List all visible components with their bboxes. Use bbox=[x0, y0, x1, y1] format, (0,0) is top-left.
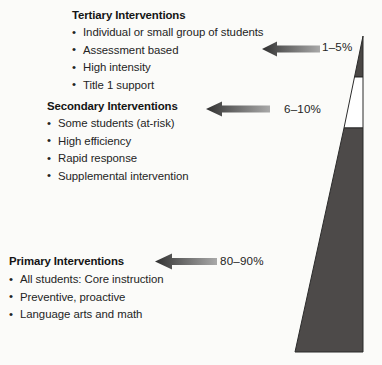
list-item: •High intensity bbox=[72, 59, 264, 77]
list-item-label: Some students (at-risk) bbox=[58, 117, 175, 129]
list-item-label: All students: Core instruction bbox=[20, 273, 163, 285]
bullet-icon: • bbox=[72, 59, 76, 77]
list-item-label: Language arts and math bbox=[20, 308, 142, 320]
tier-title-tertiary: Tertiary Interventions bbox=[72, 8, 264, 23]
bullet-icon: • bbox=[47, 115, 51, 133]
bullet-icon: • bbox=[72, 24, 76, 42]
list-item: •Rapid response bbox=[47, 150, 188, 168]
tier-title-primary: Primary Interventions bbox=[9, 254, 163, 269]
tier-list-secondary: •Some students (at-risk) •High efficienc… bbox=[47, 115, 188, 185]
left-arrow-icon-primary bbox=[155, 253, 217, 270]
list-item-label: Supplemental intervention bbox=[58, 170, 188, 182]
tier-title-secondary: Secondary Interventions bbox=[47, 99, 188, 114]
percent-label-primary: 80–90% bbox=[220, 254, 264, 267]
pyramid-segment-primary bbox=[295, 128, 363, 352]
bullet-icon: • bbox=[47, 150, 51, 168]
bullet-icon: • bbox=[72, 41, 76, 59]
tier-list-primary: •All students: Core instruction •Prevent… bbox=[9, 271, 163, 324]
list-item-label: Rapid response bbox=[58, 152, 137, 164]
tier-block-secondary: Secondary Interventions •Some students (… bbox=[47, 99, 188, 185]
pyramid-graphic bbox=[290, 30, 370, 360]
intervention-pyramid-figure: Tertiary Interventions •Individual or sm… bbox=[0, 0, 382, 365]
list-item: •Preventive, proactive bbox=[9, 289, 163, 307]
bullet-icon: • bbox=[72, 76, 76, 94]
pyramid-segment-secondary bbox=[344, 77, 363, 128]
bullet-icon: • bbox=[9, 271, 13, 289]
list-item: •High efficiency bbox=[47, 133, 188, 151]
list-item-label: Individual or small group of students bbox=[83, 26, 264, 38]
bullet-icon: • bbox=[47, 167, 51, 185]
tier-list-tertiary: •Individual or small group of students •… bbox=[72, 24, 264, 94]
tier-block-primary: Primary Interventions •All students: Cor… bbox=[9, 254, 163, 324]
tier-block-tertiary: Tertiary Interventions •Individual or sm… bbox=[72, 8, 264, 94]
list-item: •All students: Core instruction bbox=[9, 271, 163, 289]
pyramid-segment-tertiary bbox=[355, 36, 364, 77]
list-item-label: High efficiency bbox=[58, 135, 131, 147]
list-item: •Language arts and math bbox=[9, 306, 163, 324]
bullet-icon: • bbox=[47, 132, 51, 150]
list-item: •Assessment based bbox=[72, 42, 264, 60]
bullet-icon: • bbox=[9, 288, 13, 306]
list-item-label: Preventive, proactive bbox=[20, 291, 125, 303]
list-item: •Title 1 support bbox=[72, 77, 264, 95]
list-item: •Supplemental intervention bbox=[47, 168, 188, 186]
list-item: •Individual or small group of students bbox=[72, 24, 264, 42]
left-arrow-icon-secondary bbox=[206, 101, 270, 117]
list-item: •Some students (at-risk) bbox=[47, 115, 188, 133]
bullet-icon: • bbox=[9, 306, 13, 324]
list-item-label: High intensity bbox=[83, 61, 151, 73]
list-item-label: Assessment based bbox=[83, 44, 178, 56]
list-item-label: Title 1 support bbox=[83, 79, 154, 91]
